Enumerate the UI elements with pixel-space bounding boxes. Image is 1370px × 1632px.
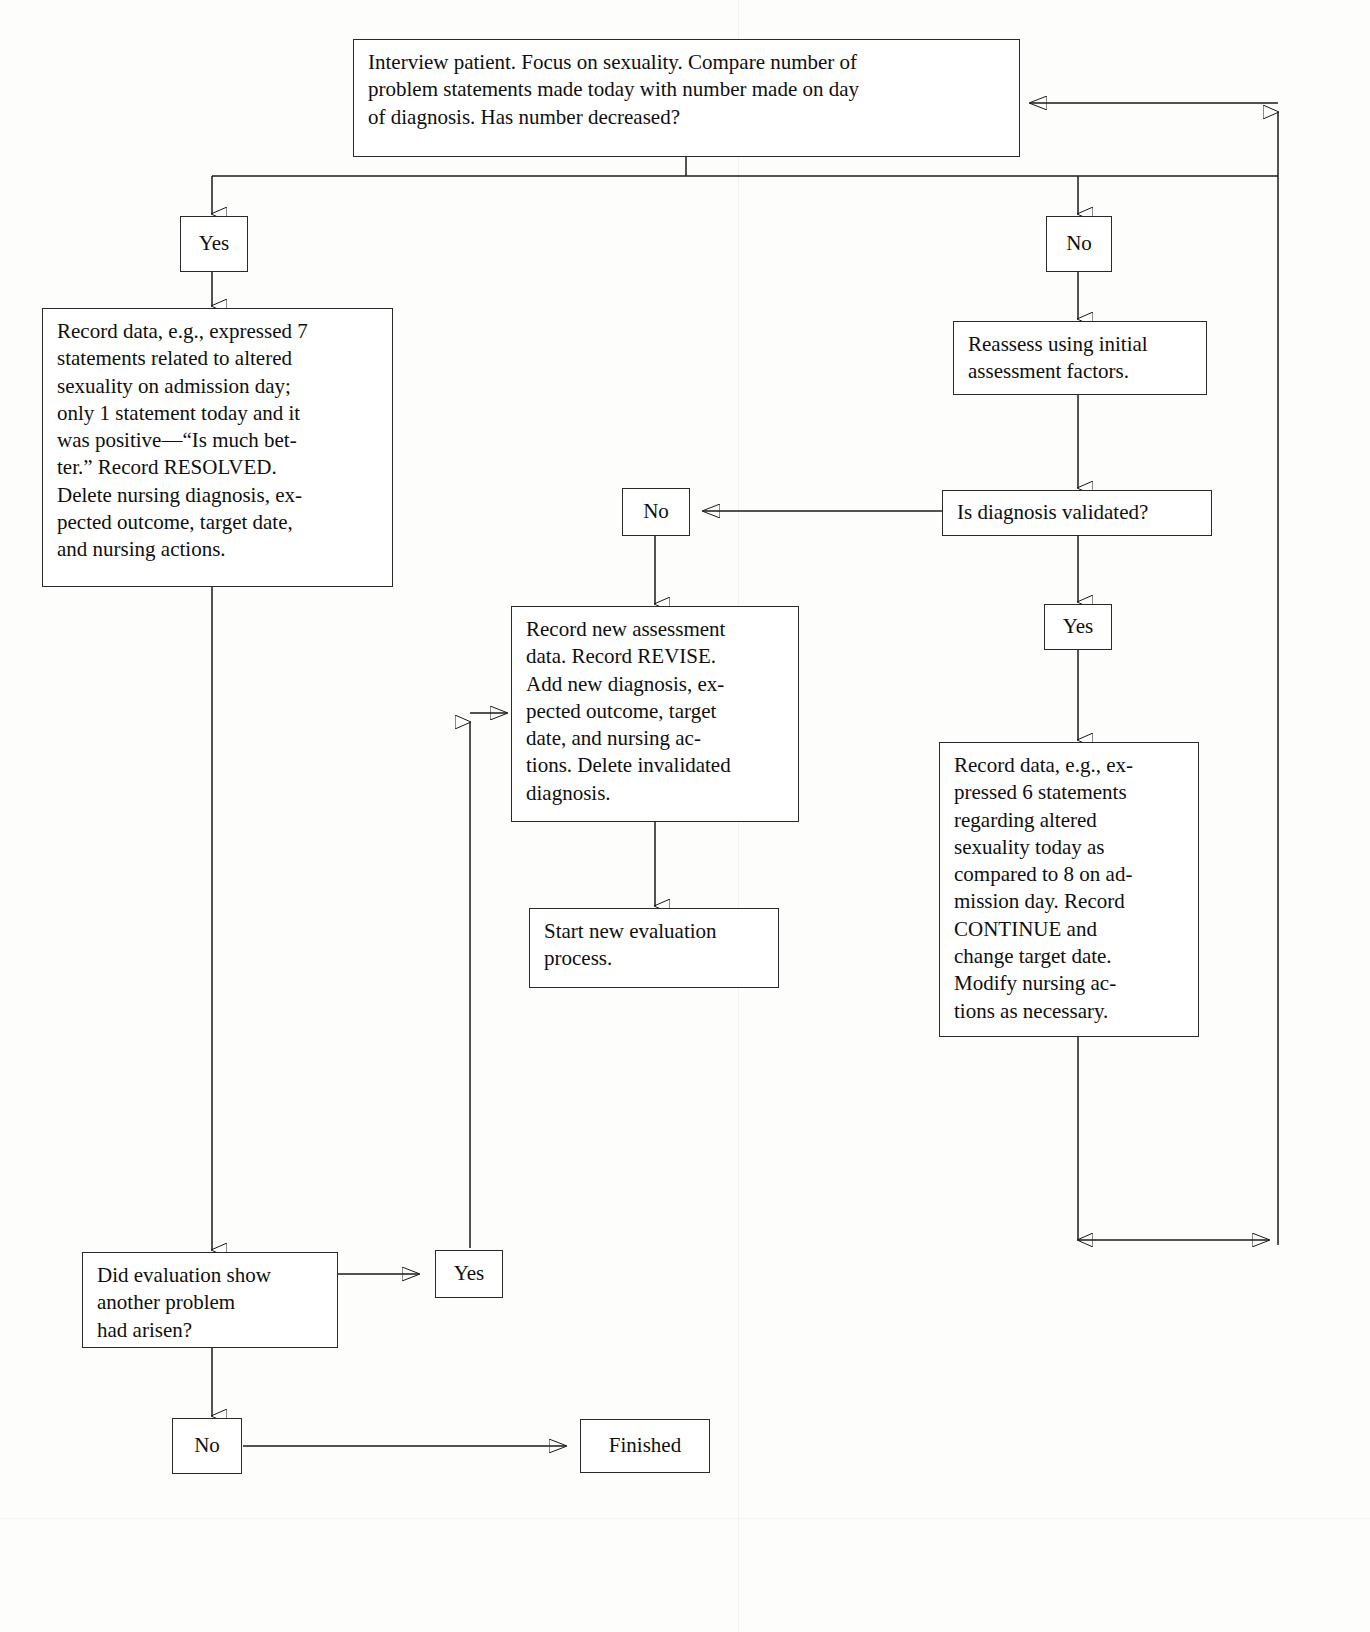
node-no-another-problem[interactable]: No — [172, 1418, 242, 1474]
node-start-new-evaluation[interactable]: Start new evaluation process. — [529, 908, 779, 988]
node-is-diagnosis-validated[interactable]: Is diagnosis validated? — [942, 490, 1212, 536]
node-did-evaluation-show[interactable]: Did evaluation show another problem had … — [82, 1252, 338, 1348]
node-record-continue-label: Record data, e.g., ex- pressed 6 stateme… — [954, 752, 1186, 1025]
node-no-top[interactable]: No — [1046, 216, 1112, 272]
node-record-continue[interactable]: Record data, e.g., ex- pressed 6 stateme… — [939, 742, 1199, 1037]
node-interview-patient-label: Interview patient. Focus on sexuality. C… — [368, 49, 1007, 131]
node-yes-another-problem-label: Yes — [454, 1260, 485, 1287]
node-yes-another-problem[interactable]: Yes — [435, 1250, 503, 1298]
node-record-revise-label: Record new assessment data. Record REVIS… — [526, 616, 786, 807]
node-no-another-problem-label: No — [194, 1432, 220, 1459]
node-reassess[interactable]: Reassess using initial assessment factor… — [953, 321, 1207, 395]
node-finished-label: Finished — [609, 1432, 681, 1459]
node-no-validated-label: No — [643, 498, 669, 525]
node-record-revise[interactable]: Record new assessment data. Record REVIS… — [511, 606, 799, 822]
node-yes-top-label: Yes — [199, 230, 230, 257]
node-is-diagnosis-validated-label: Is diagnosis validated? — [957, 499, 1148, 526]
node-record-resolved[interactable]: Record data, e.g., expressed 7 statement… — [42, 308, 393, 587]
node-record-resolved-label: Record data, e.g., expressed 7 statement… — [57, 318, 380, 564]
node-finished[interactable]: Finished — [580, 1419, 710, 1473]
node-start-new-evaluation-label: Start new evaluation process. — [544, 918, 766, 973]
node-yes-top[interactable]: Yes — [180, 216, 248, 272]
node-yes-validated-label: Yes — [1063, 613, 1094, 640]
node-yes-validated[interactable]: Yes — [1044, 604, 1112, 650]
flowchart-page: Interview patient. Focus on sexuality. C… — [0, 0, 1370, 1632]
node-no-top-label: No — [1066, 230, 1092, 257]
node-did-evaluation-show-label: Did evaluation show another problem had … — [97, 1262, 325, 1344]
node-no-validated[interactable]: No — [622, 488, 690, 536]
scan-fold — [0, 1518, 1370, 1519]
node-reassess-label: Reassess using initial assessment factor… — [968, 331, 1194, 386]
node-interview-patient[interactable]: Interview patient. Focus on sexuality. C… — [353, 39, 1020, 157]
